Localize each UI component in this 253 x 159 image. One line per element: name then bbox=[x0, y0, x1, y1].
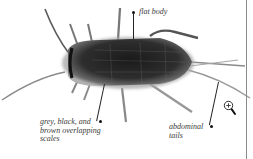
antenna-lower bbox=[2, 72, 65, 100]
page-divider-line bbox=[246, 0, 247, 159]
scales-label: grey, black, and brown overlapping scale… bbox=[40, 118, 101, 144]
flat-body-leader bbox=[133, 13, 134, 39]
tail-lower bbox=[188, 70, 250, 98]
silverfish-illustration bbox=[0, 0, 253, 159]
zoom-in-magnifier-icon[interactable] bbox=[223, 100, 237, 116]
flat-body-label: flat body bbox=[139, 8, 167, 17]
antenna-upper bbox=[45, 9, 70, 55]
illustration-panel: flat body grey, black, and brown overlap… bbox=[0, 0, 253, 159]
tails-label: abdominal tails bbox=[169, 123, 203, 140]
tails-dot bbox=[210, 125, 213, 128]
